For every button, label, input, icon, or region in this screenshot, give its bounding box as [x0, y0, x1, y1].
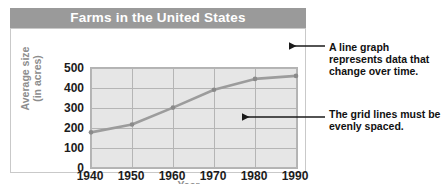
y-tick-label: 300 [50, 102, 84, 114]
data-point-marker [294, 74, 299, 79]
x-tick-label: 1970 [190, 170, 236, 182]
annotation-line-graph: A line graph represents data that change… [329, 41, 441, 78]
annotation-grid-lines: The grid lines must be evenly spaced. [329, 108, 441, 132]
x-tick-label: 1950 [108, 170, 154, 182]
y-tick-label: 500 [50, 62, 84, 74]
y-axis-title: Average size (in acres) [20, 31, 43, 127]
data-series-line [91, 68, 297, 168]
data-point-marker [171, 105, 176, 110]
y-tick-label: 200 [50, 122, 84, 134]
y-tick-label: 100 [50, 142, 84, 154]
y-axis-title-line2: (in acres) [31, 31, 43, 127]
plot-area [90, 67, 298, 169]
data-point-marker [89, 130, 94, 135]
x-tick-label: 1990 [272, 170, 318, 182]
chart-title-banner: Farms in the United States [10, 8, 306, 28]
x-tick-label: 1960 [149, 170, 195, 182]
y-tick-label: 400 [50, 82, 84, 94]
chart-figure: Farms in the United States Average size … [10, 8, 306, 173]
chart-title: Farms in the United States [70, 11, 246, 25]
y-axis-title-line1: Average size [20, 31, 32, 127]
chart-frame: Average size (in acres) Year 500 400 300… [10, 28, 306, 173]
data-point-marker [130, 122, 135, 127]
x-tick-label: 1940 [67, 170, 113, 182]
data-point-marker [212, 87, 217, 92]
data-point-marker [253, 77, 258, 82]
x-tick-label: 1980 [231, 170, 277, 182]
